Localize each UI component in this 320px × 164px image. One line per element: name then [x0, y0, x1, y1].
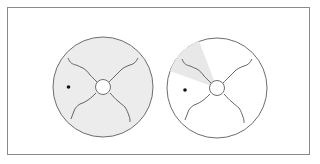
- right-dot: [183, 88, 187, 92]
- left-dot: [67, 85, 71, 89]
- right-disc-diagram: [167, 38, 267, 138]
- left-center-ring: [96, 80, 111, 95]
- right-center-ring: [210, 81, 225, 96]
- left-disc-diagram: [53, 37, 153, 137]
- diagram-canvas: [0, 0, 320, 164]
